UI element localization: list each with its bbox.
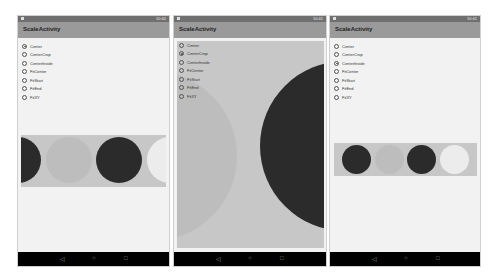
radio-fitstart[interactable]: FitStart (22, 76, 53, 85)
radio-centercrop[interactable]: CenterCrop (179, 50, 210, 59)
radio-icon (22, 95, 27, 100)
radio-icon (22, 61, 27, 66)
scaled-image (21, 135, 166, 187)
radio-icon (179, 85, 184, 90)
recents-icon[interactable]: □ (436, 255, 440, 261)
radio-center[interactable]: Center (334, 42, 365, 51)
radio-fitend[interactable]: FitEnd (179, 84, 210, 93)
radio-fitstart[interactable]: FitStart (334, 76, 365, 85)
radio-fitend[interactable]: FitEnd (22, 85, 53, 94)
radio-centerinside[interactable]: CenterInside (22, 59, 53, 68)
radio-icon (179, 94, 184, 99)
radio-centerinside[interactable]: CenterInside (179, 58, 210, 67)
radio-selected-icon (22, 44, 27, 49)
navigation-bar: ◁ ○ □ (330, 252, 480, 266)
radio-icon (334, 44, 339, 49)
recents-icon[interactable]: □ (124, 255, 128, 261)
radio-icon (22, 69, 27, 74)
screen-centercrop: 10:41 ScaleActivity Center CenterCrop Ce… (173, 15, 327, 267)
navigation-bar: ◁ ○ □ (18, 252, 169, 266)
back-icon[interactable]: ◁ (60, 255, 65, 262)
radio-icon (22, 52, 27, 57)
radio-icon (22, 78, 27, 83)
home-icon[interactable]: ○ (248, 255, 252, 261)
radio-centercrop[interactable]: CenterCrop (334, 51, 365, 60)
radio-icon (334, 78, 339, 83)
radio-fitend[interactable]: FitEnd (334, 85, 365, 94)
radio-icon (179, 77, 184, 82)
scale-type-radio-group: Center CenterCrop CenterInside FitCenter… (179, 41, 210, 101)
navigation-bar: ◁ ○ □ (174, 252, 326, 266)
screen-centerinside: 10:41 ScaleActivity Center CenterCrop Ce… (329, 15, 481, 267)
radio-icon (334, 95, 339, 100)
back-icon[interactable]: ◁ (216, 255, 221, 262)
radio-icon (334, 86, 339, 91)
content: Center CenterCrop CenterInside FitCenter… (330, 38, 480, 252)
toolbar: ScaleActivity (174, 22, 326, 38)
radio-icon (334, 52, 339, 57)
scale-type-radio-group: Center CenterCrop CenterInside FitCenter… (334, 42, 365, 102)
app-title: ScaleActivity (335, 26, 372, 32)
app-title: ScaleActivity (23, 26, 60, 32)
recents-icon[interactable]: □ (280, 255, 284, 261)
radio-selected-icon (334, 61, 339, 66)
radio-center[interactable]: Center (179, 41, 210, 50)
scale-type-radio-group: Center CenterCrop CenterInside FitCenter… (22, 42, 53, 102)
home-icon[interactable]: ○ (92, 255, 96, 261)
toolbar: ScaleActivity (330, 22, 480, 38)
radio-center[interactable]: Center (22, 42, 53, 51)
radio-icon (179, 60, 184, 65)
screen-center: 10:40 ScaleActivity Center CenterCrop Ce… (17, 15, 170, 267)
radio-icon (179, 68, 184, 73)
content: Center CenterCrop CenterInside FitCenter… (174, 38, 326, 252)
radio-fitxy[interactable]: FitXY (179, 92, 210, 101)
radio-icon (334, 69, 339, 74)
radio-fitcenter[interactable]: FitCenter (334, 68, 365, 77)
toolbar: ScaleActivity (18, 22, 169, 38)
radio-centerinside[interactable]: CenterInside (334, 59, 365, 68)
app-title: ScaleActivity (179, 26, 216, 32)
radio-fitxy[interactable]: FitXY (22, 93, 53, 102)
radio-selected-icon (179, 51, 184, 56)
home-icon[interactable]: ○ (404, 255, 408, 261)
radio-fitcenter[interactable]: FitCenter (22, 68, 53, 77)
content: Center CenterCrop CenterInside FitCenter… (18, 38, 169, 252)
radio-fitxy[interactable]: FitXY (334, 93, 365, 102)
radio-fitcenter[interactable]: FitCenter (179, 67, 210, 76)
radio-icon (22, 86, 27, 91)
radio-centercrop[interactable]: CenterCrop (22, 51, 53, 60)
radio-fitstart[interactable]: FitStart (179, 75, 210, 84)
back-icon[interactable]: ◁ (372, 255, 377, 262)
scaled-image (334, 143, 477, 176)
radio-icon (179, 43, 184, 48)
